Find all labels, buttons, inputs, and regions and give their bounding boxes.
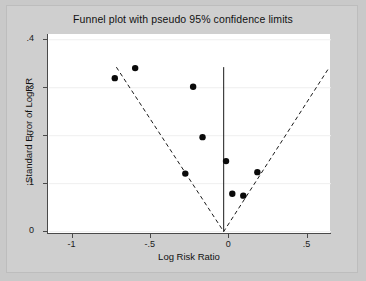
y-tick-label: .4 (0, 33, 34, 43)
x-tick-mark (228, 234, 229, 238)
x-tick-mark (150, 234, 151, 238)
y-tick-mark (43, 183, 47, 184)
y-tick-mark (43, 231, 47, 232)
x-tick-label: -.5 (130, 239, 170, 249)
plot-area (48, 34, 330, 233)
y-tick-label: .2 (0, 129, 34, 139)
y-tick-label: .3 (0, 81, 34, 91)
confidence-limit-lines (116, 67, 329, 231)
y-tick-mark (43, 87, 47, 88)
y-tick-mark (43, 135, 47, 136)
y-tick-mark (43, 39, 47, 40)
y-tick-label: .1 (0, 177, 34, 187)
x-tick-label: -1 (52, 239, 92, 249)
plot-title: Funnel plot with pseudo 95% confidence l… (0, 13, 366, 25)
x-axis-title: Log Risk Ratio (48, 251, 330, 262)
x-tick-label: 0 (208, 239, 248, 249)
x-tick-mark (72, 234, 73, 238)
funnel-plot-figure: Funnel plot with pseudo 95% confidence l… (0, 0, 366, 281)
x-tick-label: .5 (287, 239, 327, 249)
y-tick-label: 0 (0, 225, 34, 235)
gridlines (49, 40, 331, 232)
x-tick-mark (307, 234, 308, 238)
plot-canvas (49, 35, 331, 234)
data-points (112, 65, 261, 199)
